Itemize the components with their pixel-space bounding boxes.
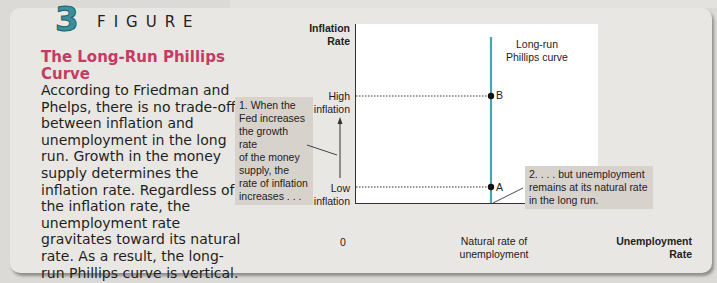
point-b (488, 93, 494, 99)
arrow-head-icon (338, 117, 343, 124)
chart-overlay (0, 0, 717, 283)
annotation-1-leader (307, 145, 337, 155)
point-a (488, 184, 494, 190)
annotation-2-leader (493, 188, 523, 203)
